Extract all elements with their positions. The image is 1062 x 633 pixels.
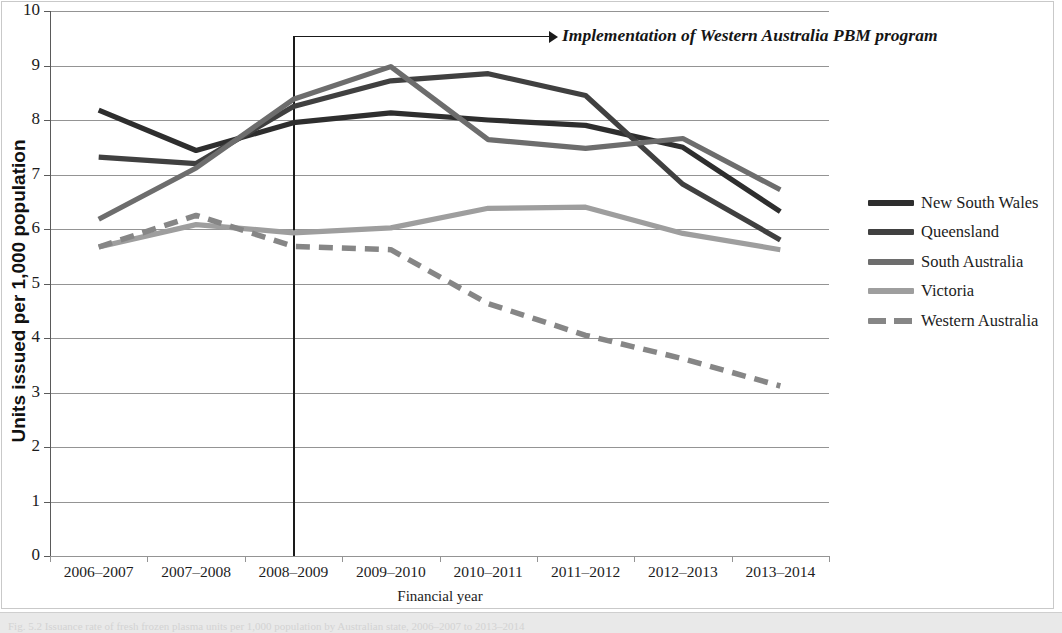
y-axis-tick — [44, 175, 51, 176]
y-axis-tick — [44, 284, 51, 285]
y-axis-tick — [44, 120, 51, 121]
grid-line — [50, 175, 829, 176]
y-axis-label: 4 — [4, 327, 40, 347]
legend-swatch-icon — [868, 259, 914, 265]
grid-line — [50, 502, 829, 503]
legend: New South WalesQueenslandSouth Australia… — [868, 188, 1058, 336]
x-axis-tick — [634, 556, 635, 562]
y-axis-label: 6 — [4, 218, 40, 238]
x-axis-label: 2007–2008 — [147, 563, 244, 581]
annotation-vertical-line — [293, 36, 294, 556]
x-axis-label: 2009–2010 — [342, 563, 439, 581]
figure-caption: Fig. 5.2 Issuance rate of fresh frozen p… — [8, 620, 1008, 633]
y-axis-tick — [44, 338, 51, 339]
grid-line — [50, 338, 829, 339]
legend-swatch-icon — [868, 318, 914, 324]
x-axis-title: Financial year — [50, 588, 830, 605]
x-axis-label: 2010–2011 — [440, 563, 537, 581]
y-axis-label: 7 — [4, 164, 40, 184]
x-axis-tick — [50, 556, 51, 562]
grid-line — [50, 393, 829, 394]
y-axis-tick — [44, 11, 51, 12]
annotation-label: Implementation of Western Australia PBM … — [562, 25, 938, 46]
y-axis-label: 8 — [4, 109, 40, 129]
grid-line — [50, 284, 829, 285]
y-axis-label: 5 — [4, 273, 40, 293]
legend-swatch-icon — [868, 288, 914, 294]
y-axis-tick — [44, 447, 51, 448]
legend-item-victoria[interactable]: Victoria — [868, 277, 1058, 307]
x-axis-label: 2011–2012 — [537, 563, 634, 581]
grid-line — [50, 447, 829, 448]
y-axis-label: 9 — [4, 55, 40, 75]
x-axis-tick — [732, 556, 733, 562]
y-axis-tick — [44, 229, 51, 230]
grid-line — [50, 120, 829, 121]
legend-label: Western Australia — [921, 311, 1038, 331]
x-axis-tick — [537, 556, 538, 562]
x-axis-tick — [342, 556, 343, 562]
legend-item-south-australia[interactable]: South Australia — [868, 247, 1058, 277]
y-axis-tick — [44, 66, 51, 67]
legend-label: New South Wales — [921, 193, 1039, 213]
y-axis-label: 1 — [4, 491, 40, 511]
arrow-right-icon — [549, 31, 558, 43]
legend-label: Queensland — [921, 222, 999, 242]
x-axis-tick — [829, 556, 830, 562]
legend-label: Victoria — [921, 281, 974, 301]
figure-page: Units issued per 1,000 population Implem… — [0, 0, 1062, 633]
y-axis-label: 0 — [4, 545, 40, 565]
legend-swatch-icon — [868, 229, 914, 235]
y-axis-label: 10 — [4, 0, 40, 20]
x-axis-tick — [245, 556, 246, 562]
legend-item-western-australia[interactable]: Western Australia — [868, 306, 1058, 336]
grid-line — [50, 66, 829, 67]
legend-item-new-south-wales[interactable]: New South Wales — [868, 188, 1058, 218]
legend-swatch-icon — [868, 200, 914, 206]
legend-item-queensland[interactable]: Queensland — [868, 218, 1058, 248]
x-axis-tick — [440, 556, 441, 562]
x-axis-label: 2006–2007 — [50, 563, 147, 581]
y-axis-label: 3 — [4, 382, 40, 402]
x-axis-label: 2012–2013 — [634, 563, 731, 581]
x-axis-tick — [147, 556, 148, 562]
x-axis-label: 2013–2014 — [732, 563, 829, 581]
grid-line — [50, 11, 829, 12]
y-axis-tick — [44, 502, 51, 503]
plot-area — [50, 11, 829, 556]
grid-line — [50, 229, 829, 230]
y-axis-label: 2 — [4, 436, 40, 456]
legend-label: South Australia — [921, 252, 1023, 272]
annotation-horizontal-line — [293, 36, 551, 37]
x-axis-label: 2008–2009 — [245, 563, 342, 581]
y-axis-tick — [44, 393, 51, 394]
